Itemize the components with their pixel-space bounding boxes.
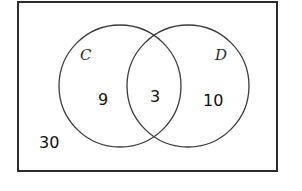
c-only-value: 9 bbox=[98, 90, 108, 109]
set-d-label: D bbox=[214, 46, 227, 64]
set-c-label: C bbox=[80, 46, 92, 64]
d-only-value: 10 bbox=[203, 91, 223, 110]
venn-diagram: C D 9 3 10 30 bbox=[0, 0, 302, 191]
set-d-circle bbox=[127, 25, 249, 147]
outside-value: 30 bbox=[39, 133, 59, 152]
set-c-circle bbox=[59, 25, 181, 147]
intersection-value: 3 bbox=[150, 87, 160, 106]
